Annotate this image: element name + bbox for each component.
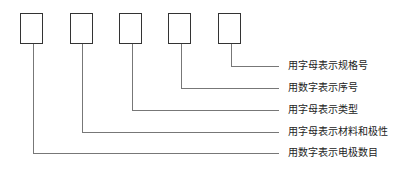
code-box-4 xyxy=(168,13,191,44)
label-material-polarity: 用字母表示材料和极性 xyxy=(288,126,388,138)
code-box-1 xyxy=(20,13,43,44)
connector-v-4 xyxy=(181,44,182,89)
connector-h-1 xyxy=(33,153,279,154)
label-serial-number: 用数字表示序号 xyxy=(288,82,358,94)
code-box-5 xyxy=(218,13,241,44)
connector-h-2 xyxy=(82,132,279,133)
connector-h-4 xyxy=(181,88,279,89)
connector-h-5 xyxy=(231,66,279,67)
connector-v-2 xyxy=(82,44,83,133)
code-box-2 xyxy=(70,13,93,44)
connector-v-1 xyxy=(33,44,34,154)
connector-v-3 xyxy=(132,44,133,111)
code-box-3 xyxy=(119,13,142,44)
label-type: 用字母表示类型 xyxy=(288,104,358,116)
connector-h-3 xyxy=(132,110,279,111)
label-spec-number: 用字母表示规格号 xyxy=(288,60,368,72)
connector-v-5 xyxy=(231,44,232,67)
label-electrode-count: 用数字表示电极数目 xyxy=(288,147,378,159)
